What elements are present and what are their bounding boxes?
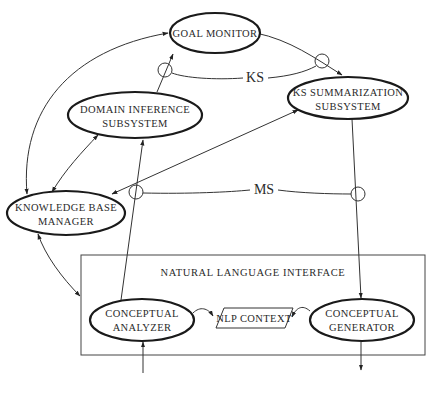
ks-line-right [268,66,316,78]
node-conceptual-generator: CONCEPTUAL GENERATOR [310,299,414,341]
ks-label: KS [246,70,264,85]
node-knowledge-base-manager: KNOWLEDGE BASE MANAGER [7,191,125,235]
svg-text:CONCEPTUAL: CONCEPTUAL [325,308,398,319]
node-nlp-context: NLP CONTEXT [216,308,293,328]
edge-domain-goal-monitor [157,54,173,92]
node-ks-summarization-subsystem: KS SUMMARIZATION SUBSYSTEM [288,77,408,119]
svg-text:NLP CONTEXT: NLP CONTEXT [216,313,292,324]
nli-title: NATURAL LANGUAGE INTERFACE [161,267,346,278]
ms-line-right [278,190,351,194]
svg-text:KS SUMMARIZATION: KS SUMMARIZATION [293,87,404,98]
svg-text:SUBSYSTEM: SUBSYSTEM [102,118,168,129]
node-goal-monitor: GOAL MONITOR [170,13,260,53]
svg-text:DOMAIN INFERENCE: DOMAIN INFERENCE [80,104,190,115]
node-domain-inference-subsystem: DOMAIN INFERENCE SUBSYSTEM [68,92,202,138]
architecture-diagram: NATURAL LANGUAGE INTERFACE KS MS GOAL MO… [0,0,429,395]
ms-line-left [143,190,250,193]
ks-junction-left [158,63,172,77]
svg-text:MANAGER: MANAGER [38,216,94,227]
svg-text:ANALYZER: ANALYZER [113,322,172,333]
ms-junction-right [351,187,365,201]
ks-junction-right [315,54,329,68]
edge-goal-monitor-ks-summarization [256,33,342,75]
ms-label: MS [254,182,274,197]
edge-generator-nlp-context [292,307,310,317]
svg-text:SUBSYSTEM: SUBSYSTEM [315,101,381,112]
node-conceptual-analyzer: CONCEPTUAL ANALYZER [90,299,194,341]
edge-kbm-nli [38,234,80,296]
ks-line-left [172,73,243,79]
edge-analyzer-domain-inference [121,140,143,300]
edge-analyzer-nlp-context [193,309,213,316]
svg-text:CONCEPTUAL: CONCEPTUAL [105,308,178,319]
svg-text:GENERATOR: GENERATOR [329,322,395,333]
svg-text:GOAL MONITOR: GOAL MONITOR [172,28,257,39]
svg-text:KNOWLEDGE BASE: KNOWLEDGE BASE [15,202,117,213]
edge-kbm-domain-inference [52,135,98,192]
edge-ks-summarization-generator [352,119,361,298]
